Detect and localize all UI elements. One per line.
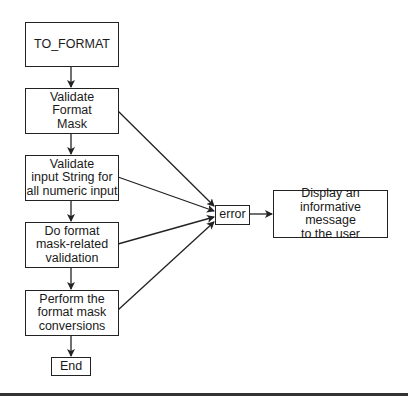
node-label: Perform the format mask conversions xyxy=(38,293,107,334)
node-label: Validate Format Mask xyxy=(50,91,94,132)
node-label: Display an informative message to the us… xyxy=(274,187,387,241)
node-validate-format-mask: Validate Format Mask xyxy=(25,88,119,134)
node-format-mask-conversions: Perform the format mask conversions xyxy=(25,290,119,336)
node-label: Do format mask-related validation xyxy=(36,225,108,266)
node-error: error xyxy=(215,205,250,225)
arrow-conversion-to-error xyxy=(118,222,214,310)
node-end: End xyxy=(51,357,91,376)
node-label: Validate input String for all numeric in… xyxy=(26,158,117,199)
arrow-mask-validation-to-error xyxy=(118,217,214,244)
node-label: error xyxy=(219,208,245,222)
bottom-divider xyxy=(0,393,408,396)
node-to-format: TO_FORMAT xyxy=(25,22,119,67)
node-label: TO_FORMAT xyxy=(34,38,110,52)
node-mask-related-validation: Do format mask-related validation xyxy=(25,222,119,268)
node-validate-input-string: Validate input String for all numeric in… xyxy=(25,155,119,201)
node-display-message: Display an informative message to the us… xyxy=(273,190,388,238)
arrow-validate-mask-to-error xyxy=(118,111,214,206)
node-label: End xyxy=(60,360,82,374)
arrow-validate-input-to-error xyxy=(118,177,214,211)
